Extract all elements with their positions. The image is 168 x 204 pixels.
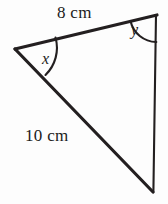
- angle-label-y: y: [131, 21, 138, 39]
- triangle-figure: [0, 0, 168, 204]
- diagram-canvas: 8 cm 10 cm x y: [0, 0, 168, 204]
- side-length-label-top: 8 cm: [57, 3, 92, 23]
- side-length-label-left: 10 cm: [25, 126, 69, 146]
- side-left-10cm: [15, 49, 153, 192]
- angle-label-x: x: [42, 50, 49, 68]
